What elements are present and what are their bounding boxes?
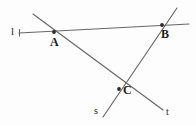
point-c-dot	[117, 87, 121, 91]
point-a-dot	[52, 30, 56, 34]
point-label-b: B	[161, 28, 169, 40]
line-label-l: l	[11, 26, 14, 37]
line-label-t: t	[166, 107, 169, 117]
line-label-s: s	[94, 106, 98, 116]
point-label-c: C	[123, 84, 132, 96]
line-s	[103, 8, 177, 117]
point-label-a: A	[50, 36, 59, 48]
geometry-figure: l A B C s t	[0, 0, 196, 125]
